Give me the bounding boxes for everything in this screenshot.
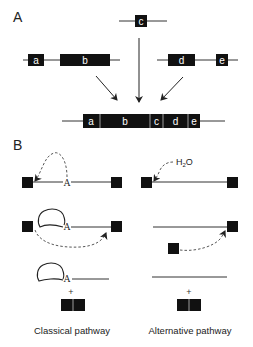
classical-step-2: A <box>22 209 122 247</box>
arrow-right-to-merged <box>161 77 183 100</box>
dashed-attack-arrow <box>35 153 67 181</box>
alternative-step-1: H2O <box>141 157 238 188</box>
exon-e-label: e <box>219 55 225 66</box>
exon-3prime <box>227 177 238 188</box>
classical-pathway-label: Classical pathway <box>34 325 110 336</box>
exon-c-label: c <box>139 16 144 27</box>
alternative-step-2 <box>153 221 238 254</box>
exon-5prime <box>22 177 33 188</box>
splicing-diagram: A c a b d e <box>0 0 253 347</box>
panel-b: B A H2O A <box>13 137 238 336</box>
exon-b-label: b <box>82 55 88 66</box>
classical-products: A + Classical pathway <box>34 263 110 336</box>
classical-step-1: A <box>22 153 122 188</box>
branch-point-a: A <box>63 178 71 188</box>
arrow-left-to-merged <box>96 76 117 100</box>
dashed-hydrolysis-arrow <box>154 162 173 181</box>
branch-point-a: A <box>63 222 71 232</box>
exon-a-label: a <box>33 55 39 66</box>
exon-de-transcript: d e <box>157 54 238 66</box>
merged-exon-d: d <box>173 116 179 127</box>
exon-5prime-free <box>168 243 179 254</box>
merged-exon-c: c <box>154 116 159 127</box>
panel-a: A c a b d e <box>13 9 238 128</box>
merged-exon-e: e <box>191 116 197 127</box>
exon-3prime <box>111 221 122 232</box>
merged-exon-a: a <box>88 116 94 127</box>
panel-a-label: A <box>13 9 23 25</box>
exon-ab-transcript: a b <box>23 54 120 66</box>
water-label: H2O <box>176 157 193 168</box>
lariat-intron <box>37 263 63 281</box>
exon-3prime <box>111 177 122 188</box>
merged-exon-b: b <box>122 116 128 127</box>
dashed-ligation-arrow <box>180 231 225 250</box>
plus-sign: + <box>68 287 73 297</box>
plus-sign: + <box>186 287 191 297</box>
alternative-products: + Alternative pathway <box>149 277 232 336</box>
exon-3prime <box>227 221 238 232</box>
alternative-pathway-label: Alternative pathway <box>149 325 232 336</box>
panel-b-label: B <box>13 137 22 153</box>
lariat-loop <box>38 209 64 227</box>
exon-d-label: d <box>179 55 185 66</box>
dashed-ligation-arrow <box>35 230 106 247</box>
exon-5prime <box>141 177 152 188</box>
branch-point-a: A <box>63 274 71 284</box>
exon-c-transcript: c <box>119 15 167 27</box>
merged-mrna: a b c d e <box>62 114 225 128</box>
exon-5prime <box>22 221 33 232</box>
